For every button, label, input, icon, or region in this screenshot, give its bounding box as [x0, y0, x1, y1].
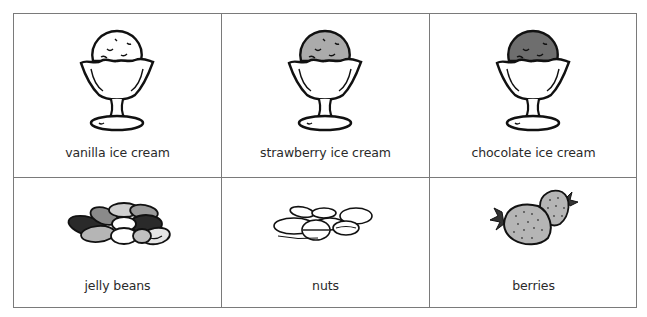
nuts-icon	[272, 204, 382, 244]
choice-label: berries	[430, 278, 637, 293]
strawberry-sundae-icon	[285, 29, 365, 133]
choice-nuts[interactable]: nuts	[222, 178, 429, 308]
jelly-beans-icon	[64, 198, 174, 248]
choice-label: nuts	[222, 278, 429, 293]
choice-label: chocolate ice cream	[430, 145, 637, 160]
strawberries-icon	[488, 184, 578, 254]
choice-strawberry-ice-cream[interactable]: strawberry ice cream	[222, 14, 429, 177]
choice-label: jelly beans	[14, 278, 221, 293]
choice-vanilla-ice-cream[interactable]: vanilla ice cream	[14, 14, 221, 177]
choice-jelly-beans[interactable]: jelly beans	[14, 178, 221, 308]
vanilla-sundae-icon	[77, 29, 157, 133]
choice-berries[interactable]: berries	[430, 178, 637, 308]
chocolate-sundae-icon	[493, 29, 573, 133]
choice-label: vanilla ice cream	[14, 145, 221, 160]
choice-label: strawberry ice cream	[222, 145, 429, 160]
choice-chocolate-ice-cream[interactable]: chocolate ice cream	[430, 14, 637, 177]
